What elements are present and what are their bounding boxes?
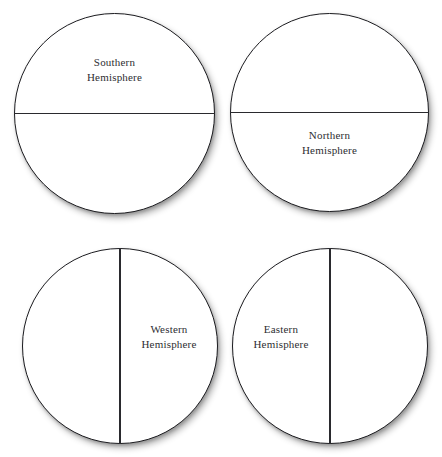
- label-western-hemisphere: Western Hemisphere: [120, 322, 218, 352]
- label-line-1: Eastern: [232, 322, 330, 337]
- equator-divider-southern: [14, 113, 215, 114]
- hemisphere-circle-western: Western Hemisphere: [22, 248, 218, 444]
- label-line-1: Northern: [280, 128, 380, 143]
- label-eastern-hemisphere: Eastern Hemisphere: [232, 322, 330, 352]
- hemisphere-circle-eastern: Eastern Hemisphere: [232, 248, 428, 444]
- hemisphere-circle-southern: Southern Hemisphere: [14, 13, 215, 214]
- label-southern-hemisphere: Southern Hemisphere: [64, 55, 165, 85]
- label-line-2: Hemisphere: [120, 337, 218, 352]
- label-line-2: Hemisphere: [64, 70, 165, 85]
- hemisphere-circle-northern: Northern Hemisphere: [230, 13, 429, 212]
- hemisphere-diagram: Southern Hemisphere Northern Hemisphere …: [0, 0, 442, 457]
- label-line-2: Hemisphere: [280, 143, 380, 158]
- label-line-2: Hemisphere: [232, 337, 330, 352]
- label-line-1: Western: [120, 322, 218, 337]
- equator-divider-northern: [230, 112, 429, 113]
- label-northern-hemisphere: Northern Hemisphere: [280, 128, 380, 158]
- label-line-1: Southern: [64, 55, 165, 70]
